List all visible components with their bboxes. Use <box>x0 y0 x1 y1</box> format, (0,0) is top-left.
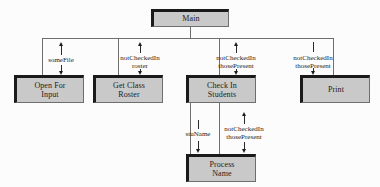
couple-stuname-stem <box>198 120 199 129</box>
couple-open-input-arrowhead-down <box>59 71 63 75</box>
module-get-class-roster[interactable]: Get Class Roster <box>93 75 163 103</box>
couple-processname-arrowhead-up <box>242 112 246 116</box>
module-get-class-roster-line-0: Get Class <box>113 81 145 91</box>
couple-checkin-arrowhead-down <box>234 71 238 75</box>
module-process-name-line-1: Name <box>212 169 232 179</box>
module-open-for-input[interactable]: Open For Input <box>14 75 84 103</box>
couple-print-arrowhead-down <box>311 71 315 75</box>
module-check-in-students-line-0: Check In <box>207 81 237 91</box>
couple-roster-arrowhead-down <box>138 71 142 75</box>
couple-print-stem <box>313 42 314 52</box>
module-open-for-input-line-1: Input <box>41 90 58 100</box>
couple-roster-stem <box>140 45 141 53</box>
couple-stuname-arrowhead-down <box>196 149 200 153</box>
module-process-name[interactable]: Process Name <box>186 154 256 182</box>
couple-somefile-label: someFile <box>31 56 91 64</box>
couple-somefile-stem <box>61 45 62 55</box>
connector-spine-process-name <box>190 103 191 154</box>
connector-main-stem <box>190 27 191 38</box>
module-main[interactable]: Main <box>151 9 229 27</box>
connector-bus <box>42 38 334 39</box>
couple-checkin-label: notCheckedIn thosePresent <box>199 54 273 70</box>
couple-processname-arrowhead-down <box>242 149 246 153</box>
module-print[interactable]: Print <box>300 75 370 103</box>
couple-roster-arrowhead-up <box>138 42 142 46</box>
couple-processname-label: notCheckedIn thosePresent <box>207 125 281 141</box>
couple-somefile-arrowhead-up <box>59 42 63 46</box>
module-main-line-0: Main <box>182 14 199 24</box>
module-check-in-students[interactable]: Check In Students <box>186 75 256 103</box>
module-process-name-line-0: Process <box>209 160 234 170</box>
couple-roster-label: notCheckedIn roster <box>103 54 177 70</box>
module-get-class-roster-line-1: Roster <box>118 90 140 100</box>
couple-checkin-arrowhead-up <box>234 42 238 46</box>
module-open-for-input-line-0: Open For <box>34 81 65 91</box>
couple-checkin-stem <box>236 45 237 53</box>
module-print-line-0: Print <box>328 85 344 95</box>
couple-processname-stem <box>244 115 245 124</box>
module-check-in-students-line-1: Students <box>208 90 236 100</box>
structure-chart-canvas: Main Open For Input Get Class Roster Che… <box>0 0 380 187</box>
